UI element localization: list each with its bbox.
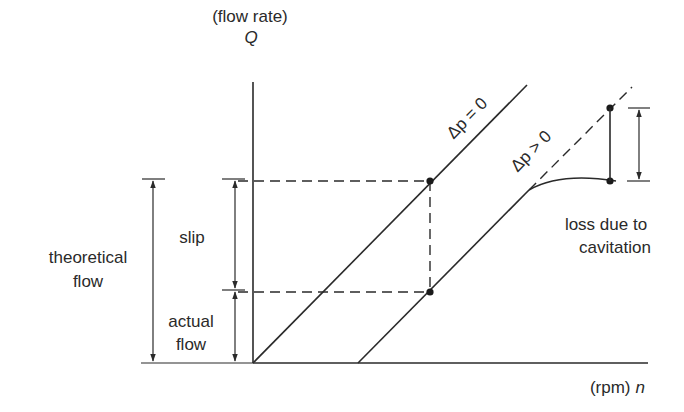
cavitation-label-2: cavitation <box>579 238 651 257</box>
x-axis-label-prefix: (rpm) <box>590 378 631 397</box>
cavitation-loss-dimension <box>627 108 650 181</box>
theoretical-point <box>426 177 433 184</box>
real-flow-label: Δp > 0 <box>507 127 555 176</box>
y-axis-variable: Q <box>244 28 257 47</box>
cavitation-label: loss due to <box>565 215 647 234</box>
real-flow-line <box>358 190 529 363</box>
actual-flow-label-2: flow <box>176 335 207 354</box>
y-axis-label: (flow rate) <box>212 7 288 26</box>
pump-flow-diagram: (flow rate) Q (rpm)n Δp = 0 Δp > 0 theor… <box>0 0 684 412</box>
x-axis-variable: n <box>636 378 645 397</box>
theoretical-flow-label: theoretical <box>49 248 127 267</box>
actual-flow-label: actual <box>168 312 213 331</box>
ideal-flow-line <box>253 85 527 363</box>
ideal-flow-label: Δp = 0 <box>443 94 491 143</box>
x-axis-label: (rpm)n <box>590 378 645 397</box>
cavitation-curve <box>529 178 616 190</box>
theoretical-flow-label-2: flow <box>73 272 104 291</box>
actual-point <box>426 288 433 295</box>
slip-label: slip <box>179 228 205 247</box>
projection-lines <box>238 181 430 292</box>
slip-actual-dimension <box>222 179 245 361</box>
